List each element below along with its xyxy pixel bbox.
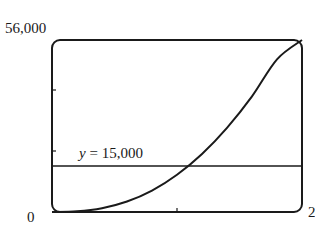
- equation-rest: = 15,000: [86, 145, 143, 161]
- function-curve: [52, 40, 302, 212]
- horizontal-line-label: y = 15,000: [79, 146, 143, 161]
- chart-plot-area: [0, 0, 315, 240]
- variable-y: y: [79, 145, 86, 161]
- x-axis-max-label: 2: [308, 205, 315, 220]
- y-axis-max-label: 56,000: [5, 21, 46, 36]
- plot-frame: [52, 40, 302, 212]
- y-axis-min-label: 0: [27, 210, 35, 225]
